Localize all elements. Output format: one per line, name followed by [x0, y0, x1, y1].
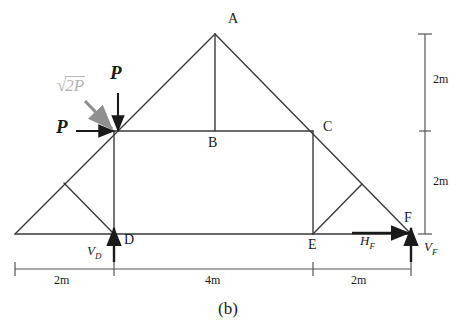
applied-loads	[76, 93, 118, 131]
reaction-d-base: V	[87, 243, 95, 258]
vertical-reaction-d-label: VD	[87, 244, 101, 261]
diagonal-load-label: √2P	[57, 76, 85, 94]
truss-members	[15, 34, 411, 234]
vertical-reaction-f-label: VF	[424, 240, 437, 257]
horizontal-reaction-f-label: HF	[360, 234, 375, 251]
dim-label-right-2m: 2m	[351, 274, 366, 286]
reaction-hf-sub: F	[369, 241, 375, 251]
diagonal-load-value: 2P	[65, 76, 85, 94]
dim-label-upper-2m: 2m	[433, 73, 448, 85]
joint-label-d: D	[124, 233, 134, 247]
figure-caption: (b)	[218, 300, 238, 317]
reaction-vf-base: V	[424, 239, 432, 254]
joint-label-a: A	[228, 12, 238, 26]
diagonal-load-arrow	[85, 101, 112, 129]
joint-label-e: E	[308, 238, 317, 252]
joint-label-c: C	[323, 120, 332, 134]
member-web-right	[313, 184, 362, 234]
vertical-dimension-line	[418, 34, 432, 234]
member-web-left	[64, 183, 114, 234]
reaction-vf-sub: F	[432, 247, 438, 257]
horizontal-load-label: P	[56, 117, 68, 136]
truss-figure: A B C D E F √2P P P VD HF VF 2m 4m 2m 2m…	[0, 0, 456, 332]
reaction-hf-base: H	[360, 233, 369, 248]
reaction-d-sub: D	[95, 251, 102, 261]
joint-label-f: F	[404, 211, 412, 225]
joint-label-b: B	[208, 136, 217, 150]
dim-label-lower-2m: 2m	[433, 175, 448, 187]
vertical-load-label: P	[110, 63, 122, 82]
dim-label-left-2m: 2m	[54, 274, 69, 286]
dim-label-middle-4m: 4m	[205, 274, 220, 286]
